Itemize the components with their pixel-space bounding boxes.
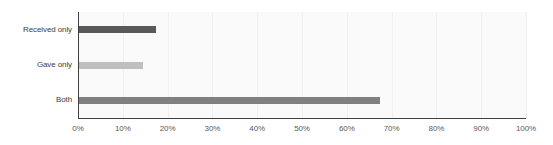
bar: [78, 62, 143, 69]
plot-area: [78, 12, 526, 118]
x-tick-label: 60%: [327, 124, 367, 134]
gridline: [392, 12, 393, 118]
x-tick-label: 40%: [237, 124, 277, 134]
category-label: Both: [0, 95, 72, 104]
x-tick-label: 0%: [58, 124, 98, 134]
x-tick-label: 20%: [148, 124, 188, 134]
bar: [78, 26, 156, 33]
category-label: Received only: [0, 25, 72, 34]
x-tick-label: 80%: [416, 124, 456, 134]
bar-chart: Received onlyGave onlyBoth 0%10%20%30%40…: [0, 0, 553, 145]
x-axis-line: [78, 118, 526, 119]
x-tick-label: 50%: [282, 124, 322, 134]
x-tick-label: 100%: [506, 124, 546, 134]
x-tick-label: 90%: [461, 124, 501, 134]
x-tick-label: 70%: [372, 124, 412, 134]
x-tick-label: 30%: [192, 124, 232, 134]
bar: [78, 97, 380, 104]
y-axis-line: [78, 12, 79, 118]
gridline: [526, 12, 527, 118]
x-tick-label: 10%: [103, 124, 143, 134]
gridline: [481, 12, 482, 118]
gridline: [436, 12, 437, 118]
category-label: Gave only: [0, 60, 72, 69]
